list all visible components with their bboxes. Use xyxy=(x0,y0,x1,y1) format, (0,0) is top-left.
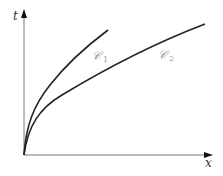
curve-c1-label: 𝒞 1 xyxy=(92,49,108,64)
curve-c2-label: 𝒞 2 xyxy=(158,48,174,63)
curve-c1-subscript: 1 xyxy=(103,55,108,64)
diagram-canvas: t x 𝒞 1 𝒞 2 xyxy=(0,0,223,176)
x-axis-label: x xyxy=(205,156,212,170)
y-axis-label: t xyxy=(13,9,18,23)
curve-c2-subscript: 2 xyxy=(169,54,174,63)
y-axis-arrow-icon xyxy=(21,9,27,18)
curve-c2 xyxy=(24,24,205,155)
